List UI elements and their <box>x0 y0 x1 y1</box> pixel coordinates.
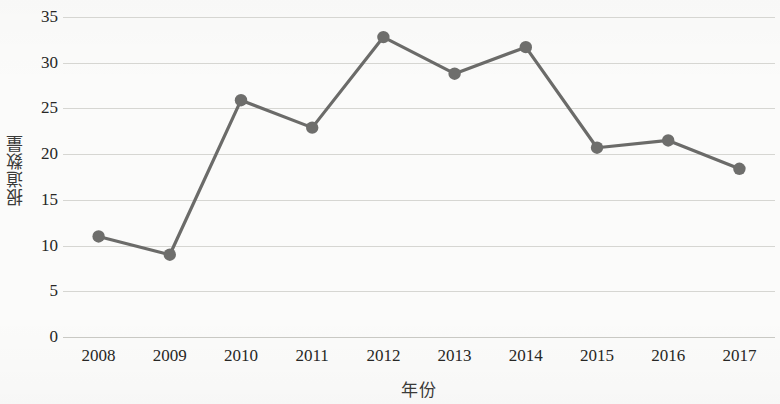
x-tick-label: 2010 <box>224 346 258 366</box>
y-tick-label: 35 <box>12 7 58 27</box>
series-markers <box>92 31 745 261</box>
data-point-marker <box>306 121 318 133</box>
x-tick-label: 2013 <box>438 346 472 366</box>
y-tick-label: 0 <box>12 327 58 347</box>
line-chart: 报道数量 05101520253035 20082009201020112012… <box>0 0 780 404</box>
x-tick-label: 2009 <box>153 346 187 366</box>
data-point-marker <box>377 31 389 43</box>
y-tick-label: 30 <box>12 53 58 73</box>
y-tick-label: 10 <box>12 236 58 256</box>
x-tick-label: 2017 <box>722 346 756 366</box>
y-axis-tick-labels: 05101520253035 <box>10 0 58 404</box>
plot-area <box>63 17 775 337</box>
series-layer <box>63 17 775 337</box>
data-point-marker <box>520 41 532 53</box>
x-axis-tick-labels: 2008200920102011201220132014201520162017 <box>63 346 775 374</box>
data-point-marker <box>164 249 176 261</box>
y-tick-label: 20 <box>12 144 58 164</box>
data-point-marker <box>662 134 674 146</box>
x-tick-label: 2011 <box>296 346 329 366</box>
data-point-marker <box>733 163 745 175</box>
x-tick-label: 2016 <box>651 346 685 366</box>
data-point-marker <box>235 94 247 106</box>
y-tick-label: 15 <box>12 190 58 210</box>
data-point-marker <box>448 67 460 79</box>
series-line <box>99 37 740 255</box>
x-tick-label: 2014 <box>509 346 543 366</box>
data-point-marker <box>92 230 104 242</box>
y-tick-label: 5 <box>12 281 58 301</box>
x-tick-label: 2012 <box>366 346 400 366</box>
x-tick-label: 2008 <box>82 346 116 366</box>
x-tick-label: 2015 <box>580 346 614 366</box>
y-tick-label: 25 <box>12 98 58 118</box>
data-point-marker <box>591 142 603 154</box>
x-axis-title: 年份 <box>63 376 775 401</box>
gridline <box>63 337 775 338</box>
